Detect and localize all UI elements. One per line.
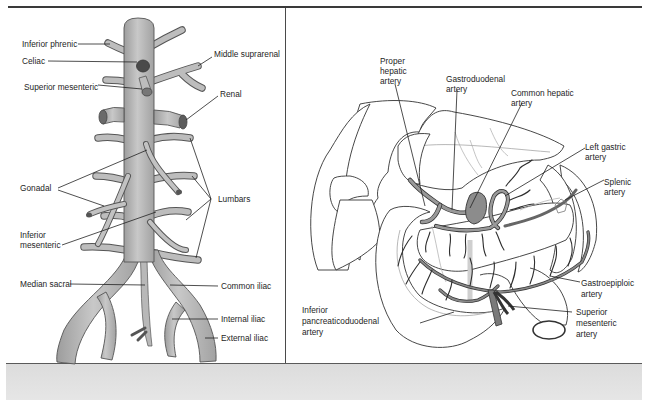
label-superior-mesenteric-3: artery [576, 329, 598, 339]
celiac-stump [137, 60, 150, 72]
label-median-sacral: Median sacral [20, 279, 72, 289]
label-superior-mesenteric: Superior mesenteric [24, 82, 98, 92]
label-inf-pancreaticoduodenal-2: pancreaticoduodenal [302, 316, 379, 326]
label-common-iliac: Common iliac [221, 281, 271, 291]
label-proper-hepatic-1: Proper [380, 56, 405, 66]
celiac-panel: Proper hepatic artery Gastroduodenal art… [302, 56, 634, 347]
label-gonadal: Gonadal [20, 183, 52, 193]
iliac-arteries [57, 250, 216, 364]
label-gastroduodenal-1: Gastroduodenal [446, 74, 505, 84]
label-gastroduodenal-2: artery [446, 84, 468, 94]
label-common-hepatic-2: artery [511, 98, 533, 108]
label-left-gastric-1: Left gastric [585, 142, 626, 152]
label-middle-suprarenal: Middle suprarenal [214, 49, 280, 59]
label-gastroepiploic-1: Gastroepiploic [581, 278, 634, 288]
label-common-hepatic-1: Common hepatic [511, 88, 574, 98]
label-proper-hepatic-2: hepatic [380, 66, 407, 76]
sma-stump [142, 88, 152, 96]
label-gastroepiploic-2: artery [581, 289, 603, 299]
label-inferior-mesenteric-line2: mesenteric [20, 240, 61, 250]
label-inf-pancreaticoduodenal-1: Inferior [302, 305, 328, 315]
label-renal: Renal [220, 89, 242, 99]
label-superior-mesenteric-2: mesenteric [576, 318, 617, 328]
label-celiac: Celiac [22, 56, 45, 66]
label-internal-iliac: Internal iliac [221, 314, 265, 324]
label-superior-mesenteric-1: Superior [576, 307, 608, 317]
label-inferior-mesenteric-line1: Inferior [20, 230, 46, 240]
label-splenic-2: artery [604, 187, 626, 197]
label-proper-hepatic-3: artery [380, 76, 402, 86]
pancreas-outline [417, 203, 573, 271]
label-inferior-phrenic: Inferior phrenic [22, 39, 77, 49]
aorta-panel: Inferior phrenic Celiac Superior mesente… [0, 0, 646, 400]
label-left-gastric-2: artery [585, 152, 607, 162]
label-splenic-1: Splenic [604, 177, 631, 187]
label-lumbars: Lumbars [218, 194, 250, 204]
anatomy-figure: Inferior phrenic Celiac Superior mesente… [0, 0, 646, 400]
label-external-iliac: External iliac [221, 333, 268, 343]
label-inf-pancreaticoduodenal-3: artery [302, 327, 324, 337]
